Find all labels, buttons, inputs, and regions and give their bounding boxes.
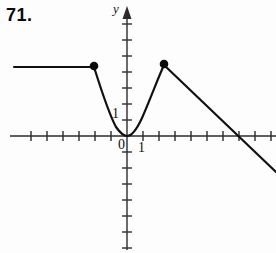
series-parabola-branch: [94, 65, 164, 136]
x-axis-unit-label: 1: [138, 140, 145, 156]
origin-label: 0: [118, 137, 125, 153]
marked-point-left: [90, 62, 99, 71]
y-axis-arrow: [123, 6, 132, 19]
piecewise-function-graph: [0, 0, 276, 253]
marked-point-right: [160, 60, 169, 69]
figure-container: 71.: [0, 0, 276, 253]
series-decreasing-line: [164, 65, 276, 172]
y-axis-label: y: [113, 1, 119, 17]
y-axis-unit-label: 1: [112, 106, 119, 122]
y-axis: [122, 6, 132, 250]
